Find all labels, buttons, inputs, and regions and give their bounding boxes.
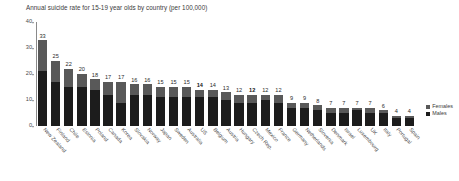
bar-group[interactable]: 15 — [169, 22, 178, 126]
y-axis-tick-mark — [32, 74, 34, 75]
bar-segment-males — [274, 103, 283, 126]
bar-segment-males — [352, 110, 361, 126]
bar-group[interactable]: 17 — [103, 22, 112, 126]
bar-segment-females — [38, 40, 47, 71]
bar-group[interactable]: 22 — [64, 22, 73, 126]
bar-value-label: 6 — [382, 104, 385, 110]
legend-swatch-icon — [426, 112, 430, 116]
bar-segment-males — [339, 113, 348, 126]
legend-label: Females — [432, 104, 453, 109]
bar-segment-males — [156, 97, 165, 126]
bar-stack: 12 — [274, 95, 283, 126]
bar-segment-females — [182, 87, 191, 97]
bar-stack: 12 — [247, 95, 256, 126]
bar-segment-females — [208, 90, 217, 98]
bar-group[interactable]: 9 — [287, 22, 296, 126]
bar-value-label: 12 — [275, 88, 281, 94]
bar-group[interactable]: 12 — [261, 22, 270, 126]
bar-segment-males — [195, 97, 204, 126]
bar-segment-females — [130, 84, 139, 94]
bar-group[interactable]: 14 — [195, 22, 204, 126]
bar-stack: 15 — [156, 87, 165, 126]
bar-value-label: 9 — [303, 96, 306, 102]
legend-label: Males — [432, 111, 446, 116]
bar-stack: 25 — [51, 61, 60, 126]
bar-value-label: 7 — [369, 101, 372, 107]
bar-value-label: 7 — [355, 101, 358, 107]
bar-value-label: 9 — [290, 96, 293, 102]
bar-group[interactable]: 33 — [38, 22, 47, 126]
bar-stack: 18 — [90, 79, 99, 126]
x-axis-label-france: France — [277, 127, 292, 143]
bar-value-label: 12 — [262, 88, 268, 94]
bar-value-label: 4 — [395, 109, 398, 115]
bar-group[interactable]: 7 — [365, 22, 374, 126]
bar-group[interactable]: 7 — [326, 22, 335, 126]
bar-stack: 7 — [365, 108, 374, 126]
legend-item-females[interactable]: Females — [426, 104, 453, 109]
bar-group[interactable]: 7 — [352, 22, 361, 126]
bar-group[interactable]: 4 — [405, 22, 414, 126]
bar-stack: 12 — [261, 95, 270, 126]
bar-segment-males — [64, 87, 73, 126]
bar-group[interactable]: 12 — [274, 22, 283, 126]
bar-group[interactable]: 25 — [51, 22, 60, 126]
bar-segment-females — [116, 82, 125, 103]
chart-title: Annual suicide rate for 15-19 year olds … — [26, 4, 207, 11]
bar-group[interactable]: 13 — [221, 22, 230, 126]
bar-segment-females — [195, 90, 204, 98]
y-axis-tick-40: 40 — [26, 19, 32, 25]
bar-segment-females — [103, 82, 112, 95]
bar-group[interactable]: 14 — [208, 22, 217, 126]
bar-group[interactable]: 16 — [130, 22, 139, 126]
bar-group[interactable]: 12 — [247, 22, 256, 126]
legend-item-males[interactable]: Males — [426, 111, 453, 116]
bar-segment-females — [221, 92, 230, 100]
bar-stack: 9 — [287, 103, 296, 126]
bar-segment-males — [234, 103, 243, 126]
bar-group[interactable]: 18 — [90, 22, 99, 126]
bar-segment-males — [169, 97, 178, 126]
bar-stack: 13 — [221, 92, 230, 126]
bar-stack: 16 — [130, 84, 139, 126]
bar-segment-males — [392, 118, 401, 126]
x-axis-category-labels: New ZealandFinlandChileEstoniaPolandCana… — [36, 127, 416, 179]
x-axis-label-us: US — [199, 127, 208, 136]
bar-stack: 6 — [379, 110, 388, 126]
bar-segment-males — [130, 95, 139, 126]
bar-segment-males — [261, 100, 270, 126]
bar-value-label: 15 — [184, 80, 190, 86]
bar-value-label: 22 — [66, 62, 72, 68]
legend-swatch-icon — [426, 105, 430, 109]
y-axis-tick-mark — [32, 22, 34, 23]
bar-group[interactable]: 12 — [234, 22, 243, 126]
x-axis-label-uk: UK — [369, 127, 378, 136]
bar-group[interactable]: 15 — [156, 22, 165, 126]
bar-group[interactable]: 7 — [339, 22, 348, 126]
bar-stack: 20 — [77, 74, 86, 126]
bar-segment-males — [221, 100, 230, 126]
y-axis-tick-mark — [32, 126, 34, 127]
bar-segment-females — [247, 95, 256, 103]
bar-segment-females — [234, 95, 243, 103]
bar-stack: 22 — [64, 69, 73, 126]
bar-value-label: 33 — [39, 34, 45, 40]
bar-group[interactable]: 15 — [182, 22, 191, 126]
bar-group[interactable]: 17 — [116, 22, 125, 126]
bar-group[interactable]: 9 — [300, 22, 309, 126]
bar-segment-females — [64, 69, 73, 87]
bar-group[interactable]: 16 — [143, 22, 152, 126]
chart-legend: FemalesMales — [426, 104, 453, 117]
bar-group[interactable]: 8 — [313, 22, 322, 126]
bar-segment-males — [182, 97, 191, 126]
bar-group[interactable]: 4 — [392, 22, 401, 126]
bar-group[interactable]: 6 — [379, 22, 388, 126]
bar-segment-males — [77, 87, 86, 126]
bar-stack: 33 — [38, 40, 47, 126]
bar-value-label: 18 — [92, 73, 98, 79]
y-axis-tick-10: 10 — [26, 97, 32, 103]
bar-value-label: 16 — [131, 78, 137, 84]
bar-group[interactable]: 20 — [77, 22, 86, 126]
bar-value-label: 25 — [53, 54, 59, 60]
bar-stack: 17 — [103, 82, 112, 126]
